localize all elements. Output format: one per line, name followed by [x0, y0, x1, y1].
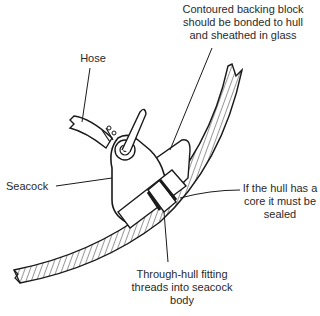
- label-through-hull-line3: body: [118, 294, 246, 307]
- label-backing-block-line3: and sheathed in glass: [168, 29, 318, 42]
- label-backing-block: Contoured backing block should be bonded…: [168, 3, 318, 42]
- label-core-line1: If the hull has a: [238, 182, 320, 195]
- label-through-hull-line2: threads into seacock: [118, 281, 246, 294]
- label-through-hull-line1: Through-hull fitting: [118, 268, 246, 281]
- label-through-hull: Through-hull fitting threads into seacoc…: [118, 268, 246, 307]
- label-hose: Hose: [76, 52, 110, 65]
- leader-hose: [82, 68, 90, 122]
- hose: [70, 116, 116, 148]
- leader-through-hull: [164, 212, 168, 262]
- label-core-line3: sealed: [238, 208, 320, 221]
- leader-seacock: [56, 178, 112, 186]
- label-backing-block-line2: should be bonded to hull: [168, 16, 318, 29]
- label-seacock-text: Seacock: [6, 180, 48, 192]
- label-core-line2: core it must be: [238, 195, 320, 208]
- label-seacock: Seacock: [6, 180, 56, 193]
- label-backing-block-line1: Contoured backing block: [168, 3, 318, 16]
- label-hose-text: Hose: [80, 52, 106, 64]
- label-core: If the hull has a core it must be sealed: [238, 182, 320, 221]
